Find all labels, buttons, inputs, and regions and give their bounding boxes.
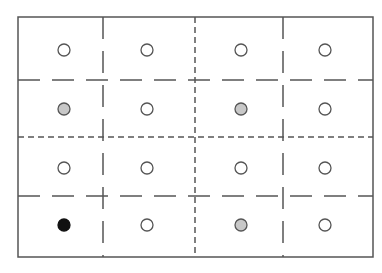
- circle-gray-icon: [235, 219, 247, 231]
- circle-gray-icon: [58, 103, 70, 115]
- circle-empty-icon: [319, 44, 331, 56]
- grid-diagram: [0, 0, 382, 273]
- circle-empty-icon: [58, 162, 70, 174]
- circle-black-icon: [58, 219, 70, 231]
- circle-empty-icon: [58, 44, 70, 56]
- circle-empty-icon: [235, 162, 247, 174]
- circle-gray-icon: [235, 103, 247, 115]
- circle-empty-icon: [141, 44, 153, 56]
- circle-empty-icon: [141, 103, 153, 115]
- circle-empty-icon: [141, 219, 153, 231]
- circle-empty-icon: [319, 162, 331, 174]
- circle-empty-icon: [141, 162, 153, 174]
- circle-empty-icon: [319, 219, 331, 231]
- circle-empty-icon: [235, 44, 247, 56]
- circle-empty-icon: [319, 103, 331, 115]
